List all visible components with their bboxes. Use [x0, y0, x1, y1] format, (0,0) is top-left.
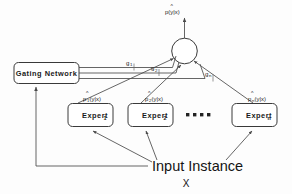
gate-wire-n [79, 64, 205, 79]
expert-2-output-args: (y|x) [152, 96, 163, 102]
gate-label-1-group: g 1 [126, 59, 133, 68]
gate-sub-2: 2 [155, 68, 158, 73]
input-to-expert-2-wire [146, 131, 157, 160]
expert-n-output-args: (y|x) [255, 96, 266, 102]
expert-output-wires-group [78, 59, 253, 104]
expert-1-output-label-group: ^ p 1 (y|x) [83, 90, 101, 104]
expert-1-output-args: (y|x) [90, 96, 101, 102]
ellipsis-dot-4 [207, 113, 210, 116]
expert-1-sub: 1 [104, 115, 107, 121]
input-instance-label: Input Instance [152, 158, 243, 174]
combiner-node[interactable] [172, 38, 198, 64]
mixture-of-experts-diagram: ^ p(y|x) Gating Network g 1 g 2 [0, 0, 292, 194]
output-label: p(y|x) [165, 9, 180, 15]
output-label-group: ^ p(y|x) [165, 3, 180, 15]
gating-network-label: Gating Network [16, 69, 78, 78]
diagram-canvas: ^ p(y|x) Gating Network g 1 g 2 [0, 0, 292, 194]
expert-n-output-label-group: ^ p n (y|x) [248, 90, 266, 104]
gate-label-1: g [126, 59, 129, 66]
expert-2-output-label-group: ^ p 2 (y|x) [145, 90, 163, 104]
expert-n-sub: n [268, 115, 271, 121]
expert-n-output-wire [194, 61, 253, 103]
input-variable-label: X [183, 178, 190, 189]
expert-2-sub: 2 [164, 115, 167, 121]
input-to-expert-1-wire [93, 131, 152, 162]
ellipsis-dot-3 [200, 113, 203, 116]
input-to-expert-n-wire [226, 131, 252, 160]
expert-ellipsis [186, 113, 210, 116]
gate-sub-1: 1 [130, 62, 133, 67]
ellipsis-dot-2 [193, 113, 196, 116]
ellipsis-dot-1 [186, 113, 189, 116]
